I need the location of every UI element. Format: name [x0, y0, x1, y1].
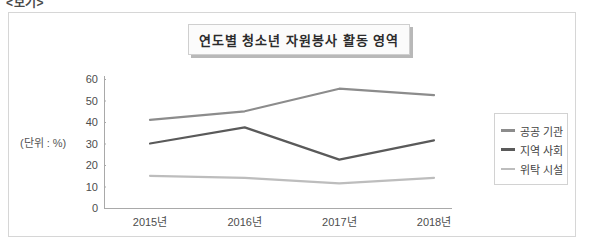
y-tick-label: 50 [76, 96, 98, 107]
chart-title: 연도별 청소년 자원봉사 활동 영역 [199, 30, 399, 49]
legend-label: 위탁 시설 [520, 161, 563, 177]
legend-item: 지역 사회 [501, 140, 567, 159]
x-axis-tick-labels: 2015년2016년2017년2018년 [104, 213, 464, 233]
x-tick-label: 2016년 [227, 213, 261, 229]
y-tick-label: 60 [76, 74, 98, 85]
x-tick-label: 2017년 [322, 213, 356, 229]
y-axis-tick-labels: 0102030405060 [74, 76, 98, 208]
unit-label: (단위 : %) [20, 134, 66, 150]
y-tick-label: 20 [76, 160, 98, 171]
plot-area [104, 76, 464, 212]
y-tick-label: 0 [76, 203, 98, 214]
legend-item: 위탁 시설 [501, 159, 567, 178]
top-caption: <보기> [6, 0, 44, 10]
series-line-2 [150, 176, 434, 184]
y-tick-label: 40 [76, 117, 98, 128]
legend-line-icon [501, 129, 515, 132]
line-chart-svg [104, 76, 464, 212]
legend-line-icon [501, 148, 515, 151]
series-line-0 [150, 89, 434, 120]
legend-item: 공공 기관 [501, 121, 567, 140]
legend-label: 지역 사회 [520, 142, 563, 158]
x-tick-label: 2018년 [417, 213, 451, 229]
legend-label: 공공 기관 [520, 123, 563, 139]
y-tick-label: 10 [76, 182, 98, 193]
legend-line-icon [501, 168, 515, 170]
series-line-1 [150, 127, 434, 159]
y-tick-label: 30 [76, 139, 98, 150]
chart-legend: 공공 기관지역 사회위탁 시설 [494, 113, 568, 185]
chart-title-box: 연도별 청소년 자원봉사 활동 영역 [188, 24, 410, 55]
x-tick-label: 2015년 [133, 213, 167, 229]
